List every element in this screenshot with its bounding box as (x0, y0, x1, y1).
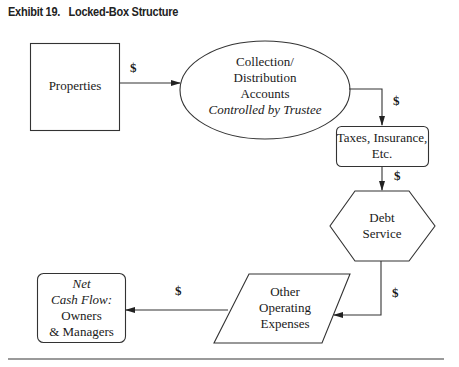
collection-line2: Distribution (185, 70, 345, 86)
net-line3: Owners (37, 308, 126, 324)
net-line4: & Managers (37, 324, 126, 340)
net-line2: Cash Flow: (37, 292, 126, 308)
edge-label-1: $ (130, 60, 137, 76)
properties-label: Properties (30, 78, 120, 94)
edge-collection-taxes (349, 89, 382, 125)
edge-debt-other (334, 261, 381, 315)
taxes-line2: Etc. (334, 146, 430, 162)
taxes-label: Taxes, Insurance, Etc. (334, 130, 430, 162)
debt-line1: Debt (345, 210, 419, 226)
collection-line1: Collection/ (185, 54, 345, 70)
collection-line3: Accounts (185, 86, 345, 102)
edge-label-3: $ (394, 168, 401, 184)
edge-label-4: $ (392, 285, 399, 301)
debt-line2: Service (345, 226, 419, 242)
debt-label: Debt Service (345, 210, 419, 242)
other-line2: Operating (240, 300, 330, 316)
net-label: Net Cash Flow: Owners & Managers (37, 276, 126, 340)
collection-line4: Controlled by Trustee (185, 102, 345, 118)
other-line3: Expenses (240, 316, 330, 332)
edge-label-5: $ (175, 283, 182, 299)
net-line1: Net (37, 276, 126, 292)
other-line1: Other (240, 284, 330, 300)
other-label: Other Operating Expenses (240, 284, 330, 332)
bottom-rule (8, 358, 444, 360)
collection-label: Collection/ Distribution Accounts Contro… (185, 54, 345, 118)
edge-label-2: $ (393, 93, 400, 109)
taxes-line1: Taxes, Insurance, (334, 130, 430, 146)
